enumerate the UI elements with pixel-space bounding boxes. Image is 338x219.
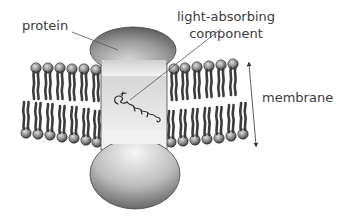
protein-label: protein <box>22 19 68 32</box>
membrane-label: membrane <box>262 91 333 104</box>
membrane-thickness-arrow-icon <box>249 64 256 145</box>
protein-bottom-cap <box>90 139 180 209</box>
membrane-protein-diagram: protein light-absorbing component membra… <box>0 0 338 219</box>
light-absorbing-label-line1: light-absorbing <box>176 10 276 23</box>
lower-leaflet-left <box>21 102 102 147</box>
protein-shape <box>90 27 180 209</box>
upper-leaflet-left <box>31 63 101 101</box>
light-absorbing-label-line2: component <box>176 27 276 40</box>
membrane-right <box>166 59 248 147</box>
membrane-left <box>21 63 102 147</box>
lower-leaflet-right <box>166 103 248 147</box>
upper-leaflet-right <box>169 59 238 100</box>
